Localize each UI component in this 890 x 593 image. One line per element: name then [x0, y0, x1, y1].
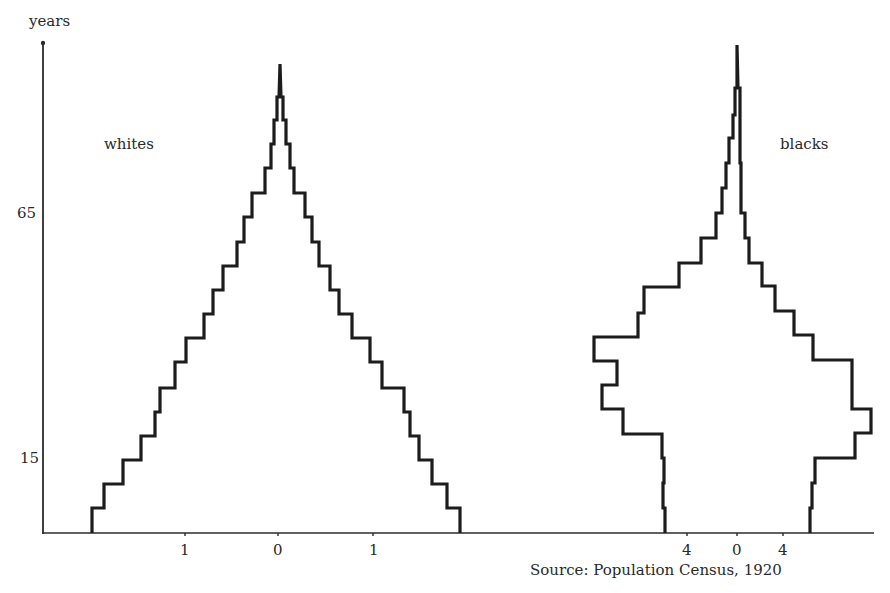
whites-tick-center: 0 [273, 541, 283, 559]
y-tick-15: 15 [20, 449, 39, 467]
population-pyramid-chart [0, 0, 890, 593]
blacks-label: blacks [780, 135, 829, 153]
whites-label: whites [104, 135, 154, 153]
whites-tick-left: 1 [180, 541, 190, 559]
whites-tick-right: 1 [369, 541, 379, 559]
y-tick-65: 65 [17, 204, 36, 222]
y-axis-label: years [29, 12, 70, 30]
source-note: Source: Population Census, 1920 [530, 561, 782, 579]
y-axis-arrow-icon [41, 41, 45, 45]
blacks-pyramid-outline [594, 45, 871, 533]
blacks-tick-left: 4 [682, 541, 692, 559]
blacks-tick-right: 4 [778, 541, 788, 559]
blacks-tick-center: 0 [732, 541, 742, 559]
